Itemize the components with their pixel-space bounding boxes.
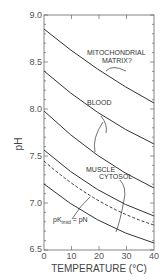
- annotation-pointers: [72, 68, 126, 233]
- curves: [44, 29, 154, 243]
- x-tick-label: 0: [41, 251, 46, 261]
- y-tick-label: 8.0: [29, 104, 42, 114]
- x-tick-label: 20: [94, 251, 104, 261]
- y-tick-label: 9.0: [29, 10, 42, 20]
- label-muscle: MUSCLE: [86, 166, 116, 173]
- y-tick-label: 8.5: [29, 57, 42, 67]
- x-axis-title: TEMPERATURE (°C): [51, 263, 146, 274]
- y-tick-labels: 9.0 8.5 8.0 7.5 7.0 6.5: [29, 10, 42, 254]
- ph-temperature-chart: 9.0 8.5 8.0 7.5 7.0 6.5 0 10 20 30 40 TE…: [0, 0, 164, 280]
- curve-muscle-cytosol-lower: [44, 184, 154, 243]
- curve-muscle-cytosol-upper: [44, 150, 154, 216]
- label-matrix: MATRIX?: [102, 57, 132, 64]
- x-tick-label: 10: [66, 251, 76, 261]
- label-cytosol: CYTOSOL: [99, 173, 132, 180]
- x-tick-label: 40: [149, 251, 159, 261]
- muscle-pointer: [116, 180, 125, 232]
- curve-blood-upper: [44, 71, 154, 144]
- label-pk-imid: pKimid = pN: [53, 216, 88, 225]
- mito-pointer: [106, 68, 126, 72]
- y-tick-label: 6.5: [29, 244, 42, 254]
- x-tick-labels: 0 10 20 30 40: [41, 251, 159, 261]
- label-blood: BLOOD: [87, 99, 112, 106]
- y-axis-title: pH: [13, 138, 24, 151]
- x-tick-label: 30: [121, 251, 131, 261]
- y-tick-label: 7.0: [29, 198, 42, 208]
- y-tick-label: 7.5: [29, 151, 42, 161]
- blood-pointer: [94, 116, 106, 152]
- curve-mitochondrial-matrix: [44, 29, 154, 103]
- label-mitochondrial: MITOCHONDRIAL: [87, 49, 146, 56]
